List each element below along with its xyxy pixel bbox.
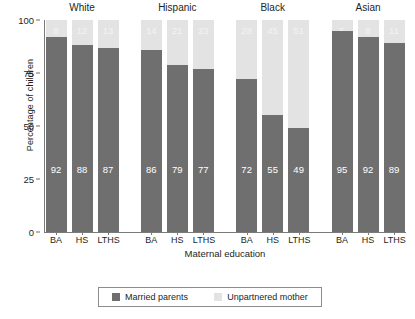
y-tick-mark bbox=[36, 126, 40, 127]
legend-swatch-married-icon bbox=[112, 293, 120, 301]
bar-slot: 5149LTHS bbox=[288, 20, 309, 232]
bar-segment-unpartnered[interactable]: 28 bbox=[236, 20, 257, 79]
legend-label-unpartnered: Unpartnered mother bbox=[227, 292, 308, 302]
x-tick-label-ba: BA bbox=[236, 235, 257, 245]
bar-segment-unpartnered[interactable]: 11 bbox=[384, 20, 405, 43]
bar-slot: 2377LTHS bbox=[193, 20, 214, 232]
group-title: Hispanic bbox=[139, 2, 215, 13]
bar-slot: 2872BA bbox=[236, 20, 257, 232]
group-title: Black bbox=[235, 2, 311, 13]
bar-group-black: Black2872BA4555HS5149LTHS bbox=[235, 20, 311, 232]
legend-item-unpartnered[interactable]: Unpartnered mother bbox=[214, 292, 308, 302]
x-tick-label-lths: LTHS bbox=[98, 235, 119, 245]
bar-value-label-married: 92 bbox=[51, 165, 62, 175]
bar-segment-married[interactable]: 92 bbox=[358, 37, 379, 232]
bar-slot: 1486BA bbox=[141, 20, 162, 232]
bar-value-label-unpartnered: 21 bbox=[172, 26, 183, 36]
bar-stack[interactable]: 1288 bbox=[72, 20, 93, 232]
group-title: Asian bbox=[330, 2, 406, 13]
bar-stack[interactable]: 1189 bbox=[384, 20, 405, 232]
y-tick-label: 100 bbox=[18, 15, 34, 26]
x-tick-label-lths: LTHS bbox=[288, 235, 309, 245]
bar-value-label-married: 92 bbox=[363, 165, 374, 175]
chart-legend: Married parents Unpartnered mother bbox=[98, 287, 322, 307]
y-tick-label: 50 bbox=[23, 121, 34, 132]
bar-segment-married[interactable]: 79 bbox=[167, 65, 188, 232]
bar-value-label-unpartnered: 8 bbox=[365, 26, 370, 36]
y-tick-label: 25 bbox=[23, 174, 34, 185]
legend-label-married: Married parents bbox=[125, 292, 188, 302]
bar-stack[interactable]: 2179 bbox=[167, 20, 188, 232]
bar-value-label-unpartnered: 51 bbox=[293, 26, 304, 36]
bar-segment-married[interactable]: 49 bbox=[288, 128, 309, 232]
bar-stack[interactable]: 4555 bbox=[262, 20, 283, 232]
bar-segment-married[interactable]: 95 bbox=[332, 31, 353, 232]
bar-segment-unpartnered[interactable]: 45 bbox=[262, 20, 283, 115]
bar-segment-married[interactable]: 92 bbox=[46, 37, 67, 232]
bar-segment-unpartnered[interactable]: 8 bbox=[358, 20, 379, 37]
bar-stack[interactable]: 892 bbox=[46, 20, 67, 232]
x-tick-label-hs: HS bbox=[358, 235, 379, 245]
bar-value-label-married: 88 bbox=[77, 165, 88, 175]
x-tick-label-hs: HS bbox=[262, 235, 283, 245]
x-axis-line bbox=[44, 232, 406, 233]
bar-group-asian: Asian595BA892HS1189LTHS bbox=[330, 20, 406, 232]
bar-value-label-married: 49 bbox=[293, 165, 304, 175]
x-tick-label-hs: HS bbox=[72, 235, 93, 245]
bar-stack[interactable]: 2872 bbox=[236, 20, 257, 232]
bar-stack[interactable]: 5149 bbox=[288, 20, 309, 232]
bar-value-label-married: 77 bbox=[198, 165, 209, 175]
bar-group-white: White892BA1288HS1387LTHS bbox=[44, 20, 120, 232]
bar-segment-married[interactable]: 72 bbox=[236, 79, 257, 232]
bar-value-label-unpartnered: 13 bbox=[103, 26, 114, 36]
bar-segment-unpartnered[interactable]: 5 bbox=[332, 20, 353, 31]
bar-segment-married[interactable]: 87 bbox=[98, 48, 119, 232]
x-tick-label-ba: BA bbox=[141, 235, 162, 245]
bar-stack[interactable]: 1486 bbox=[141, 20, 162, 232]
bar-slot: 1288HS bbox=[72, 20, 93, 232]
bar-segment-unpartnered[interactable]: 8 bbox=[46, 20, 67, 37]
x-tick-label-lths: LTHS bbox=[193, 235, 214, 245]
bar-value-label-unpartnered: 45 bbox=[267, 26, 278, 36]
bar-slot: 1189LTHS bbox=[384, 20, 405, 232]
bar-segment-married[interactable]: 89 bbox=[384, 43, 405, 232]
x-tick-label-ba: BA bbox=[46, 235, 67, 245]
bar-segment-unpartnered[interactable]: 12 bbox=[72, 20, 93, 45]
bar-segment-married[interactable]: 86 bbox=[141, 50, 162, 232]
bar-stack[interactable]: 595 bbox=[332, 20, 353, 232]
bar-segment-unpartnered[interactable]: 14 bbox=[141, 20, 162, 50]
bar-segment-unpartnered[interactable]: 23 bbox=[193, 20, 214, 69]
bar-segment-unpartnered[interactable]: 51 bbox=[288, 20, 309, 128]
bar-slot: 595BA bbox=[332, 20, 353, 232]
bar-segment-unpartnered[interactable]: 21 bbox=[167, 20, 188, 65]
bar-value-label-married: 79 bbox=[172, 165, 183, 175]
x-tick-label-lths: LTHS bbox=[384, 235, 405, 245]
bar-group-hispanic: Hispanic1486BA2179HS2377LTHS bbox=[139, 20, 215, 232]
bar-segment-married[interactable]: 77 bbox=[193, 69, 214, 232]
legend-item-married[interactable]: Married parents bbox=[112, 292, 188, 302]
bar-stack[interactable]: 1387 bbox=[98, 20, 119, 232]
y-tick-mark bbox=[36, 20, 40, 21]
bar-value-label-married: 89 bbox=[389, 165, 400, 175]
legend-swatch-unpartnered-icon bbox=[214, 293, 222, 301]
y-tick-mark bbox=[36, 73, 40, 74]
bar-segment-married[interactable]: 88 bbox=[72, 45, 93, 232]
bar-segment-married[interactable]: 55 bbox=[262, 115, 283, 232]
bar-value-label-married: 72 bbox=[241, 165, 252, 175]
bar-value-label-unpartnered: 14 bbox=[146, 26, 157, 36]
bar-stack[interactable]: 2377 bbox=[193, 20, 214, 232]
bar-value-label-married: 55 bbox=[267, 165, 278, 175]
plot-area: White892BA1288HS1387LTHSHispanic1486BA21… bbox=[44, 20, 406, 232]
bar-value-label-unpartnered: 12 bbox=[77, 26, 88, 36]
y-tick-mark bbox=[36, 232, 40, 233]
y-tick-label: 0 bbox=[29, 227, 34, 238]
bar-value-label-unpartnered: 11 bbox=[389, 26, 399, 36]
bar-slot: 892HS bbox=[358, 20, 379, 232]
y-tick-label: 75 bbox=[23, 68, 34, 79]
bar-segment-unpartnered[interactable]: 13 bbox=[98, 20, 119, 48]
bar-stack[interactable]: 892 bbox=[358, 20, 379, 232]
y-tick-mark bbox=[36, 179, 40, 180]
bar-value-label-unpartnered: 23 bbox=[198, 26, 209, 36]
bar-slot: 2179HS bbox=[167, 20, 188, 232]
x-tick-label-hs: HS bbox=[167, 235, 188, 245]
